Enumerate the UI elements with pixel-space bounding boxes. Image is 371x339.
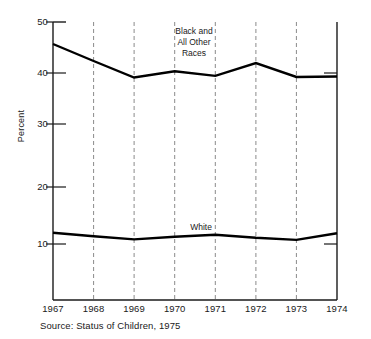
grid-lines xyxy=(94,22,297,300)
x-tick-label-1972: 1972 xyxy=(236,303,276,314)
x-tick-label-1974: 1974 xyxy=(317,303,357,314)
x-tick-label-1971: 1971 xyxy=(195,303,235,314)
series-label-white: White xyxy=(178,222,224,233)
source-note: Source: Status of Children, 1975 xyxy=(40,320,181,331)
x-tick-label-1970: 1970 xyxy=(155,303,195,314)
series-line-white xyxy=(53,233,337,240)
series-label-black-line-1: Black and xyxy=(152,26,236,37)
series-label-black-line-3: Races xyxy=(152,48,236,59)
x-tick-label-1967: 1967 xyxy=(33,303,73,314)
x-tick-label-1973: 1973 xyxy=(276,303,316,314)
right-axis-ticks xyxy=(324,73,337,244)
series-label-black-line-2: All Other xyxy=(152,37,236,48)
x-tick-label-1968: 1968 xyxy=(74,303,114,314)
y-axis-ticks xyxy=(46,22,66,244)
series-label-black-and-all-other-races: Black and All Other Races xyxy=(152,26,236,59)
chart-figure: Percent 50 40 30 20 10 xyxy=(0,0,371,339)
x-tick-label-1969: 1969 xyxy=(114,303,154,314)
axis-frame xyxy=(53,22,337,300)
